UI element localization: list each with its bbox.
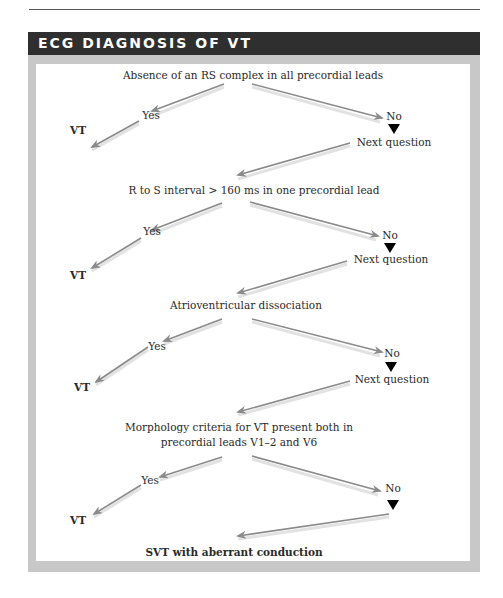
q2-down-triangle-icon [384,243,396,253]
q4-down-triangle-icon [387,500,399,510]
q4-yes-label: Yes [141,474,159,486]
q2-yes-label: Yes [143,225,161,237]
arrow-q3-next [238,381,350,412]
q1-next-question: Next question [357,136,432,148]
q1-down-triangle-icon [388,124,400,134]
arrow-q1-no [252,84,382,118]
arrow-q3-no [252,319,382,352]
arrow-q1-yes [152,84,224,111]
arrow-q3-yes [164,319,222,341]
q3-no-label: No [384,347,400,359]
question-4: Morphology criteria for VT present both … [125,420,353,450]
arrow-q3-yes-vt [96,347,148,382]
q3-vt-outcome: VT [74,381,90,393]
q2-no-label: No [382,229,398,241]
question-4-line-2: precordial leads V1–2 and V6 [125,435,353,450]
q1-vt-outcome: VT [70,124,86,136]
arrow-q2-yes [152,203,222,230]
arrow-q2-yes-vt [92,238,141,268]
arrow-shadows [92,87,389,539]
arrow-q1-yes-vt [92,121,139,147]
q4-no-label: No [385,482,401,494]
arrow-q4-yes-vt [94,485,141,514]
arrow-q4-no [252,456,380,491]
question-2: R to S interval > 160 ms in one precordi… [128,184,379,196]
arrow-q2-next [238,261,347,293]
final-outcome-svt: SVT with aberrant conduction [145,546,322,558]
q4-vt-outcome: VT [70,514,86,526]
q3-yes-label: Yes [148,340,166,352]
q3-down-triangle-icon [385,362,397,372]
question-3: Atrioventricular dissociation [170,299,322,311]
q1-no-label: No [386,110,402,122]
q2-vt-outcome: VT [70,269,86,281]
arrow-q4-yes [160,457,222,477]
q2-next-question: Next question [354,253,429,265]
arrow-q2-no [250,202,378,236]
q1-yes-label: Yes [142,109,160,121]
arrow-q4-final [238,514,389,536]
question-4-line-1: Morphology criteria for VT present both … [125,420,353,435]
question-1: Absence of an RS complex in all precordi… [123,69,383,81]
arrow-q1-next [238,143,350,175]
q3-next-question: Next question [355,373,430,385]
